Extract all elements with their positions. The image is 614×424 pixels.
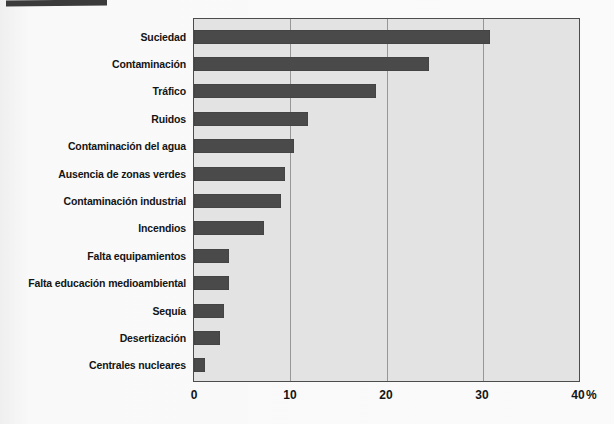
bar-row: Contaminación del agua — [0, 133, 580, 160]
bar-row: Sequía — [0, 297, 580, 324]
bar-row: Falta equipamientos — [0, 242, 580, 269]
x-tick-label: 10 — [283, 388, 296, 402]
bar-track — [194, 160, 578, 187]
category-label: Ruidos — [0, 113, 194, 125]
bar — [194, 276, 229, 290]
x-tick-label: 30 — [475, 388, 488, 402]
bar — [194, 84, 376, 98]
x-tick-label: 40 — [571, 388, 584, 402]
category-label: Falta educación medioambiental — [0, 277, 194, 289]
category-label: Contaminación — [0, 58, 194, 70]
category-label: Centrales nucleares — [0, 359, 194, 371]
bar-track — [194, 352, 578, 379]
x-tick-label: 0 — [191, 388, 198, 402]
category-label: Desertización — [0, 332, 194, 344]
bar — [194, 194, 281, 208]
bar-track — [194, 105, 578, 132]
bar-row: Centrales nucleares — [0, 352, 580, 379]
category-label: Ausencia de zonas verdes — [0, 168, 194, 180]
bar-track — [194, 324, 578, 351]
bar-track — [194, 270, 578, 297]
bar — [194, 358, 205, 372]
bar-row: Falta educación medioambiental — [0, 270, 580, 297]
category-label: Tráfico — [0, 85, 194, 97]
bar-row: Incendios — [0, 215, 580, 242]
bar-row: Desertización — [0, 324, 580, 351]
category-label: Contaminación del agua — [0, 140, 194, 152]
bar-row: Suciedad — [0, 23, 580, 50]
bar-track — [194, 242, 578, 269]
scanned-chart-page: SuciedadContaminaciónTráficoRuidosContam… — [0, 0, 614, 424]
bar-row: Ausencia de zonas verdes — [0, 160, 580, 187]
bar-row: Tráfico — [0, 78, 580, 105]
category-label: Sequía — [0, 305, 194, 317]
bar-track — [194, 297, 578, 324]
bar-rows: SuciedadContaminaciónTráficoRuidosContam… — [0, 18, 580, 382]
category-label: Contaminación industrial — [0, 195, 194, 207]
bar-track — [194, 215, 578, 242]
bar — [194, 30, 490, 44]
category-label: Incendios — [0, 222, 194, 234]
bar-row: Contaminación industrial — [0, 187, 580, 214]
category-label: Suciedad — [0, 31, 194, 43]
bar — [194, 167, 285, 181]
bar-track — [194, 187, 578, 214]
bar — [194, 57, 429, 71]
bar — [194, 249, 229, 263]
bar-track — [194, 23, 578, 50]
category-label: Falta equipamientos — [0, 250, 194, 262]
bar-track — [194, 133, 578, 160]
bar — [194, 139, 294, 153]
bar — [194, 304, 224, 318]
x-axis: 010203040% — [0, 386, 614, 404]
bar-row: Contaminación — [0, 50, 580, 77]
bar-track — [194, 78, 578, 105]
x-tick-label: 20 — [379, 388, 392, 402]
bar-chart: SuciedadContaminaciónTráficoRuidosContam… — [0, 18, 580, 382]
bar — [194, 221, 264, 235]
page-corner-decoration — [6, 0, 107, 7]
bar — [194, 112, 308, 126]
bar — [194, 331, 220, 345]
bar-row: Ruidos — [0, 105, 580, 132]
bar-track — [194, 50, 578, 77]
percent-unit-label: % — [586, 388, 597, 402]
